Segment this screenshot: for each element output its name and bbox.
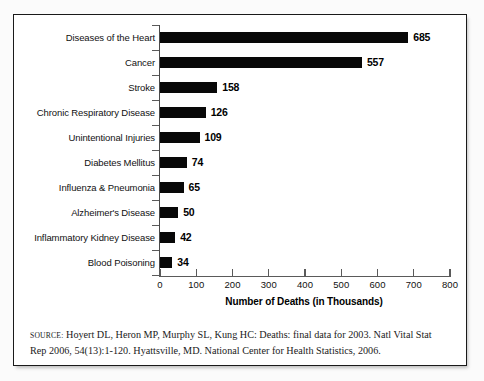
bar-value-label: 65: [189, 175, 200, 200]
category-label: Alzheimer's Disease: [71, 200, 155, 225]
bar-value-label: 74: [192, 150, 203, 175]
bar: [160, 157, 187, 168]
category-label: Chronic Respiratory Disease: [37, 100, 155, 125]
y-axis-tick: [152, 225, 159, 226]
bar-row: Inflammatory Kidney Disease42: [14, 225, 468, 250]
x-axis-tick: [341, 269, 342, 277]
x-axis-tick-label: 200: [213, 279, 253, 290]
y-axis-tick: [152, 100, 159, 101]
bar: [160, 82, 217, 93]
x-axis-title: Number of Deaths (in Thousands): [159, 296, 449, 307]
x-axis-tick: [449, 269, 450, 277]
x-axis-tick-label: 400: [285, 279, 325, 290]
bar: [160, 232, 175, 243]
x-axis-tick: [413, 269, 414, 277]
x-axis-tick-label: 0: [140, 279, 180, 290]
screenshot-root: Diseases of the Heart685Cancer557Stroke1…: [0, 0, 484, 381]
category-label: Blood Poisoning: [88, 250, 155, 275]
x-axis-tick: [304, 269, 305, 277]
bar-value-label: 42: [180, 225, 191, 250]
y-axis-tick: [152, 200, 159, 201]
category-label: Diseases of the Heart: [66, 25, 155, 50]
bar-row: Influenza & Pneumonia65: [14, 175, 468, 200]
x-axis-tick: [268, 269, 269, 277]
source-label: SOURCE:: [30, 331, 63, 340]
x-axis-tick: [196, 269, 197, 277]
bar-value-label: 158: [222, 75, 239, 100]
bar: [160, 107, 206, 118]
bar-row: Blood Poisoning34: [14, 250, 468, 275]
x-axis-tick-label: 300: [249, 279, 289, 290]
bar-value-label: 109: [205, 125, 222, 150]
source-text-line-2: Rep 2006, 54(13):1-120. Hyattsville, MD.…: [30, 344, 450, 359]
x-axis-tick-label: 700: [394, 279, 434, 290]
bar: [160, 182, 184, 193]
bar-row: Stroke158: [14, 75, 468, 100]
bar-row: Diseases of the Heart685: [14, 25, 468, 50]
category-label: Unintentional Injuries: [68, 125, 155, 150]
category-label: Inflammatory Kidney Disease: [34, 225, 155, 250]
bar-row: Alzheimer's Disease50: [14, 200, 468, 225]
bar: [160, 132, 200, 143]
bar-value-label: 126: [211, 100, 228, 125]
y-axis-tick: [152, 125, 159, 126]
x-axis-tick-label: 800: [430, 279, 470, 290]
y-axis-tick: [152, 175, 159, 176]
bar: [160, 257, 172, 268]
x-axis-tick: [377, 269, 378, 277]
x-axis-tick-label: 500: [321, 279, 361, 290]
source-text-line-1: Hoyert DL, Heron MP, Murphy SL, Kung HC:…: [66, 329, 432, 340]
y-axis-tick: [152, 150, 159, 151]
bar-value-label: 50: [183, 200, 194, 225]
bar-row: Diabetes Mellitus74: [14, 150, 468, 175]
y-axis-tick: [152, 275, 159, 276]
y-axis-tick: [152, 75, 159, 76]
category-label: Cancer: [125, 50, 155, 75]
bar-value-label: 685: [413, 25, 430, 50]
bar-row: Unintentional Injuries109: [14, 125, 468, 150]
x-axis-tick: [159, 269, 160, 277]
bar-chart-plot-area: Diseases of the Heart685Cancer557Stroke1…: [14, 15, 468, 315]
category-label: Influenza & Pneumonia: [59, 175, 155, 200]
bar-row: Cancer557: [14, 50, 468, 75]
bar-value-label: 557: [367, 50, 384, 75]
y-axis-tick: [152, 50, 159, 51]
category-label: Diabetes Mellitus: [84, 150, 155, 175]
bar-row: Chronic Respiratory Disease126: [14, 100, 468, 125]
category-label: Stroke: [128, 75, 155, 100]
x-axis-tick: [232, 269, 233, 277]
bar: [160, 32, 408, 43]
y-axis-tick: [152, 250, 159, 251]
figure-frame: Diseases of the Heart685Cancer557Stroke1…: [13, 14, 467, 366]
source-note: SOURCE: Hoyert DL, Heron MP, Murphy SL, …: [30, 328, 450, 358]
x-axis-tick-label: 100: [176, 279, 216, 290]
y-axis-tick: [152, 25, 159, 26]
x-axis-tick-label: 600: [358, 279, 398, 290]
bar: [160, 207, 178, 218]
bar: [160, 57, 362, 68]
bar-value-label: 34: [177, 250, 188, 275]
